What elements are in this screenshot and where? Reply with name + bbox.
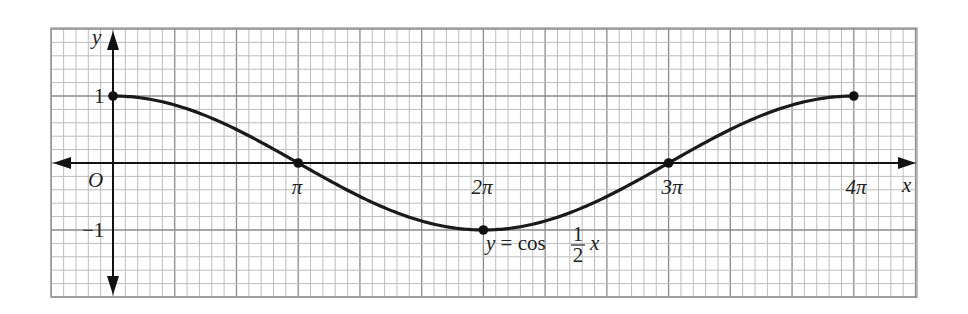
- origin-label: O: [88, 168, 103, 192]
- y-axis-arrow-down: [107, 276, 119, 295]
- axes: [53, 31, 916, 295]
- function-label-var: x: [589, 231, 600, 255]
- x-tick-pi: π: [292, 175, 303, 199]
- y-axis-label: y: [90, 25, 102, 49]
- y-tick-1: 1: [94, 84, 105, 108]
- function-label-lhs: y = cos: [484, 231, 546, 255]
- cosine-graph: y x O 1 −1 π 2π 3π 4π y = cos 1 2 x: [0, 0, 968, 314]
- x-axis-arrow-right: [898, 157, 916, 169]
- x-tick-4pi: 4π: [845, 175, 867, 199]
- x-axis-label: x: [901, 173, 912, 197]
- y-tick-neg1: −1: [82, 218, 104, 242]
- x-axis-arrow-left: [53, 157, 71, 169]
- x-tick-2pi: 2π: [471, 175, 493, 199]
- y-axis-arrow-up: [107, 31, 119, 50]
- labels: y x O 1 −1 π 2π 3π 4π y = cos 1 2 x: [82, 25, 912, 267]
- fraction-denominator: 2: [573, 243, 584, 267]
- point-marker: [664, 158, 674, 168]
- point-marker: [849, 91, 859, 101]
- point-marker: [108, 91, 118, 101]
- x-tick-3pi: 3π: [660, 175, 683, 199]
- point-marker: [293, 158, 303, 168]
